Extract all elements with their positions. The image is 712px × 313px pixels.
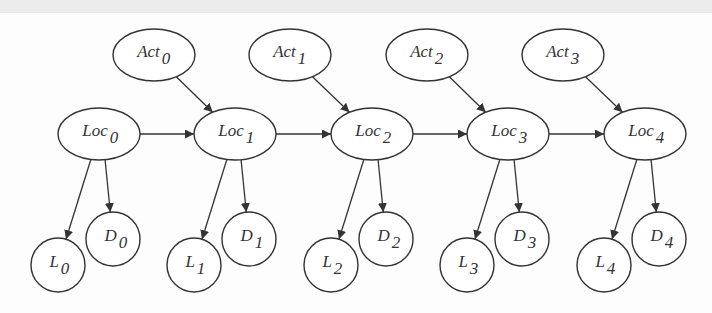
nodes-layer: Act0Act1Act2Act3Loc0Loc1Loc2Loc3Loc4L0D0… bbox=[31, 29, 686, 292]
node-l0: L0 bbox=[31, 238, 85, 292]
edge-act3-to-loc4 bbox=[586, 77, 623, 113]
edge-loc2-to-d2 bbox=[378, 159, 383, 212]
node-l3: L3 bbox=[440, 238, 494, 292]
edge-loc2-to-l2 bbox=[339, 159, 364, 239]
node-l2: L2 bbox=[304, 238, 358, 292]
node-d1: D1 bbox=[222, 212, 276, 266]
edge-act0-to-loc1 bbox=[176, 77, 212, 112]
edge-loc3-to-d3 bbox=[514, 159, 519, 212]
node-act2: Act2 bbox=[386, 29, 468, 81]
edge-loc0-to-d0 bbox=[105, 159, 110, 212]
edge-loc4-to-d4 bbox=[651, 159, 656, 212]
edge-loc0-to-l0 bbox=[66, 159, 91, 239]
node-loc0: Loc0 bbox=[58, 108, 140, 160]
node-loc4: Loc4 bbox=[604, 108, 686, 160]
edge-loc1-to-l1 bbox=[202, 159, 227, 239]
node-d2: D2 bbox=[359, 212, 413, 266]
node-act3: Act3 bbox=[522, 29, 604, 81]
edge-act1-to-loc2 bbox=[313, 77, 350, 113]
node-loc1: Loc1 bbox=[194, 108, 276, 160]
bayesian-network-svg: Act0Act1Act2Act3Loc0Loc1Loc2Loc3Loc4L0D0… bbox=[0, 0, 712, 313]
node-d4: D4 bbox=[632, 212, 686, 266]
node-d3: D3 bbox=[495, 212, 549, 266]
node-loc3: Loc3 bbox=[467, 108, 549, 160]
edge-loc3-to-l3 bbox=[475, 159, 500, 239]
node-act1: Act1 bbox=[249, 29, 331, 81]
node-l4: L4 bbox=[577, 238, 631, 292]
node-l1: L1 bbox=[167, 238, 221, 292]
node-act0: Act0 bbox=[113, 29, 195, 81]
node-loc2: Loc2 bbox=[331, 108, 413, 160]
node-d0: D0 bbox=[86, 212, 140, 266]
edge-loc4-to-l4 bbox=[612, 159, 637, 239]
edge-loc1-to-d1 bbox=[241, 159, 246, 212]
diagram-canvas: Act0Act1Act2Act3Loc0Loc1Loc2Loc3Loc4L0D0… bbox=[0, 0, 712, 313]
edge-act2-to-loc3 bbox=[449, 77, 485, 112]
